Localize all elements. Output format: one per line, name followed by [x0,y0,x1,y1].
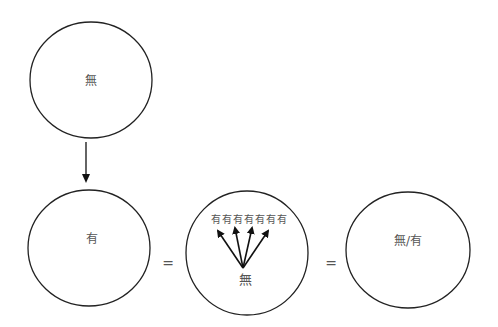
right-circle-label: 無/有 [394,233,422,248]
equals-sign-1: = [162,255,174,271]
row-char: 有 [277,213,287,225]
row-char: 有 [211,213,221,225]
top-circle: 無 [30,22,152,138]
equals-sign-2: = [325,255,337,271]
row-char: 有 [222,213,232,225]
row-char: 有 [266,213,276,225]
bottom-left-circle-label: 有 [86,232,98,246]
top-circle-label: 無 [85,73,97,88]
fan-arrows-icon [218,228,268,268]
bottom-left-circle: 有 [28,190,150,306]
right-circle: 無/有 [346,192,470,308]
row-char: 有 [244,213,254,225]
row-char: 有 [255,213,265,225]
middle-circle-bottom-label: 無 [239,272,252,287]
diagram-canvas: 無 有 = 有 有 有 有 有 有 有 無 = 無/有 [0,0,498,327]
down-arrow-icon [82,142,90,183]
row-char: 有 [233,213,243,225]
middle-circle: 有 有 有 有 有 有 有 無 [186,191,308,315]
top-row-labels: 有 有 有 有 有 有 有 [211,213,287,225]
